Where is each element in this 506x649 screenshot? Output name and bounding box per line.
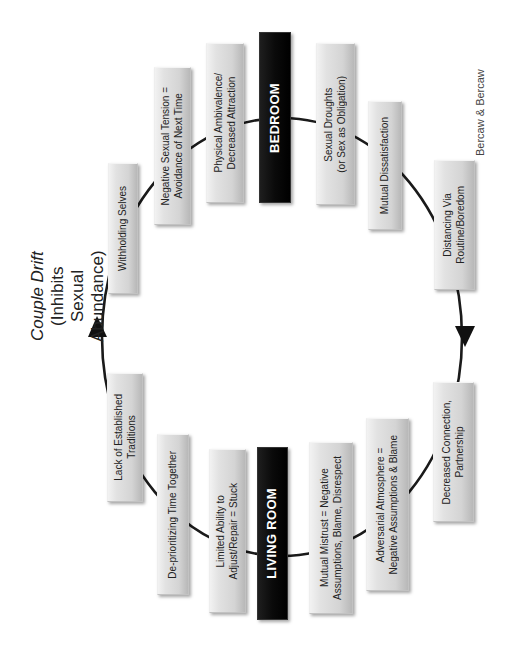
node-label: Physical Ambivalence/ Decreased Attracti… bbox=[213, 73, 238, 173]
node-physical-ambivalence: Physical Ambivalence/ Decreased Attracti… bbox=[206, 43, 244, 203]
arrow-down-icon bbox=[455, 326, 475, 347]
node-limited-ability: Limited Ability to Adjust/Repair = Stuck bbox=[209, 449, 246, 613]
hub-label: BEDROOM bbox=[269, 83, 282, 153]
node-decreased-connection: Decreased Connection, Partnership bbox=[433, 382, 474, 522]
credit-text: Bercaw & Bercaw bbox=[474, 58, 486, 156]
node-deprioritizing-time: De-prioritizing Time Together bbox=[157, 434, 189, 595]
couple-drift-diagram: Couple Drift (Inhibits Sexual Abundance)… bbox=[0, 0, 506, 649]
node-mutual-dissatisfaction: Mutual Dissatisfaction bbox=[368, 101, 402, 230]
node-sexual-droughts: Sexual Droughts (or Sex as Obligation) bbox=[316, 43, 355, 205]
node-label: Withholding Selves bbox=[117, 186, 130, 271]
node-label: De-prioritizing Time Together bbox=[167, 451, 180, 579]
node-lack-traditions: Lack of Established Traditions bbox=[107, 373, 143, 502]
hub-bedroom: BEDROOM bbox=[259, 32, 291, 203]
node-label: Limited Ability to Adjust/Repair = Stuck bbox=[215, 483, 240, 579]
node-label: Adversarial Atmosphere = Negative Assump… bbox=[375, 435, 400, 575]
node-mutual-mistrust: Mutual Mistrust = Negative Assumptions, … bbox=[309, 442, 353, 614]
hub-label: LIVING ROOM bbox=[266, 488, 279, 579]
node-negative-sexual-tension: Negative Sexual Tension = Avoidance of N… bbox=[154, 67, 191, 225]
diagram-title: Couple Drift (Inhibits Sexual Abundance) bbox=[28, 240, 108, 352]
node-label: Mutual Mistrust = Negative Assumptions, … bbox=[319, 456, 344, 600]
node-label: Distancing Via Routine/Boredom bbox=[442, 186, 467, 264]
node-label: Negative Sexual Tension = Avoidance of N… bbox=[160, 87, 185, 206]
node-label: Sexual Droughts (or Sex as Obligation) bbox=[323, 76, 348, 173]
node-label: Decreased Connection, Partnership bbox=[441, 400, 466, 505]
node-withholding-selves: Withholding Selves bbox=[108, 163, 138, 294]
title-main: Couple Drift bbox=[28, 240, 48, 352]
node-label: Mutual Dissatisfaction bbox=[379, 117, 392, 214]
node-adversarial-atmosphere: Adversarial Atmosphere = Negative Assump… bbox=[366, 418, 409, 591]
title-subtitle: (Inhibits Sexual Abundance) bbox=[48, 240, 108, 352]
node-distancing: Distancing Via Routine/Boredom bbox=[434, 160, 475, 290]
hub-living-room: LIVING ROOM bbox=[257, 447, 288, 620]
node-label: Lack of Established Traditions bbox=[113, 394, 138, 481]
